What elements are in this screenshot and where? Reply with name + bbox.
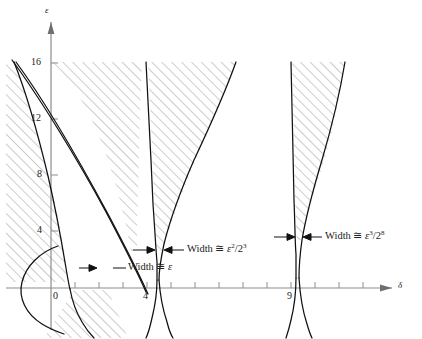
stability-chart-svg (0, 0, 422, 339)
curve-tongue-9-right-lower (299, 278, 312, 338)
x-tick-label-4: 4 (143, 291, 148, 301)
width-label-1-relation: ≅ (156, 261, 165, 272)
width-label-3-den-exponent: 8 (381, 229, 385, 237)
x-axis-label: δ (398, 281, 402, 290)
figure-canvas: ε δ 16 12 8 4 0 4 9 Width ≅ ε Width ≅ ε2… (0, 0, 422, 339)
x-axis-arrowhead (380, 285, 392, 292)
width-arrow-1 (79, 265, 126, 272)
x-axis-ticks (75, 282, 363, 288)
y-tick-label-4: 4 (37, 225, 42, 235)
y-tick-label-16: 16 (31, 57, 41, 67)
y-axis-arrowhead (48, 22, 55, 34)
curve-tongue-4-right-lower (159, 280, 173, 338)
width-label-1-symbol: ε (168, 261, 172, 272)
y-tick-label-8: 8 (37, 169, 42, 179)
curve-tongue-4-left-lower (146, 280, 157, 338)
hatch-region-tongue-9 (292, 62, 345, 240)
width-label-3: Width ≅ ε3/28 (325, 231, 384, 242)
width-label-1-prefix: Width (128, 261, 154, 272)
width-label-3-exponent: 3 (369, 229, 373, 237)
width-label-3-relation: ≅ (353, 230, 362, 241)
x-tick-label-9: 9 (287, 291, 292, 301)
hatch-region-tongue-4 (148, 62, 236, 252)
y-axis-label: ε (45, 6, 49, 15)
width-label-2-exponent: 2 (231, 242, 235, 250)
y-tick-label-12: 12 (31, 113, 41, 123)
width-label-2: Width ≅ ε2/23 (187, 244, 246, 255)
width-label-2-relation: ≅ (215, 243, 224, 254)
width-label-3-prefix: Width (325, 230, 351, 241)
x-tick-label-0: 0 (53, 291, 58, 301)
width-label-2-den-exponent: 3 (243, 242, 247, 250)
width-label-2-prefix: Width (187, 243, 213, 254)
width-label-1: Width ≅ ε (128, 262, 172, 273)
